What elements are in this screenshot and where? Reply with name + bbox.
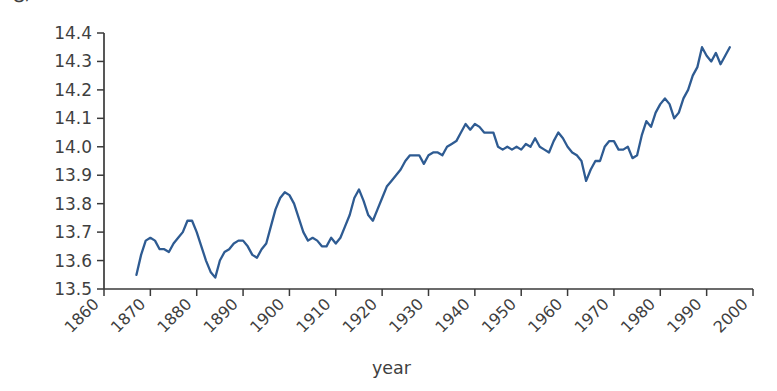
- x-tick-label: 1980: [617, 294, 659, 336]
- x-tick-label: 1940: [431, 294, 473, 336]
- y-tick-label: 14.4: [54, 23, 92, 43]
- x-tick-label: 1960: [524, 294, 566, 336]
- y-tick-label: 13.7: [54, 222, 92, 242]
- x-axis-ticks: 1860187018801890190019101920193019401950…: [61, 289, 753, 337]
- x-tick-label: 1870: [107, 294, 149, 336]
- y-tick-label: 13.5: [54, 279, 92, 299]
- x-tick-label: 1990: [663, 294, 705, 336]
- x-tick-label: 1880: [153, 294, 195, 336]
- x-tick-label: 1890: [200, 294, 242, 336]
- x-tick-label: 1930: [385, 294, 427, 336]
- y-tick-label: 14.0: [54, 137, 92, 157]
- temperature-line-chart: global average air temperature (°C) year…: [0, 0, 777, 391]
- x-tick-label: 1900: [246, 294, 288, 336]
- x-tick-label: 1860: [61, 294, 103, 336]
- x-tick-label: 1970: [571, 294, 613, 336]
- y-tick-label: 13.8: [54, 194, 92, 214]
- y-tick-label: 13.9: [54, 165, 92, 185]
- x-tick-label: 1950: [478, 294, 520, 336]
- x-tick-label: 1920: [339, 294, 381, 336]
- plot-area: 13.513.613.713.813.914.014.114.214.314.4…: [0, 0, 777, 391]
- x-tick-label: 1910: [292, 294, 334, 336]
- y-axis-ticks: 13.513.613.713.813.914.014.114.214.314.4: [54, 23, 104, 299]
- temperature-data-line: [136, 47, 729, 277]
- x-tick-label: 2000: [710, 294, 752, 336]
- y-tick-label: 14.2: [54, 80, 92, 100]
- y-tick-label: 14.1: [54, 108, 92, 128]
- y-tick-label: 13.6: [54, 251, 92, 271]
- y-tick-label: 14.3: [54, 51, 92, 71]
